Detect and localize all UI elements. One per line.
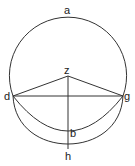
label-z: z <box>64 64 70 76</box>
label-b: b <box>70 127 76 139</box>
label-g: g <box>124 90 130 102</box>
label-h: h <box>65 150 71 162</box>
label-a: a <box>64 4 71 16</box>
segment-zd <box>13 76 68 96</box>
segment-zg <box>68 76 123 96</box>
label-d: d <box>4 90 10 102</box>
geometry-diagram: a z d g b h <box>0 0 135 166</box>
